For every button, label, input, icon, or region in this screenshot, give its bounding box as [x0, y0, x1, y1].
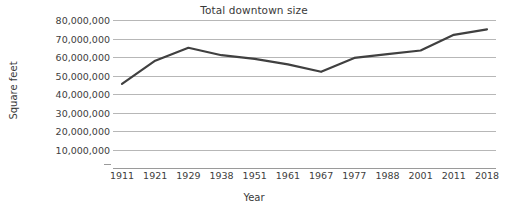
x-axis-tick-label: 1961 — [276, 170, 300, 181]
x-axis-tick-label: 1938 — [209, 170, 233, 181]
series-polyline — [122, 29, 487, 84]
x-axis-tick-label: 1977 — [342, 170, 366, 181]
x-axis-tick-label: 1921 — [143, 170, 167, 181]
y-axis-tick-label: 60,000,000 — [24, 52, 110, 63]
x-axis-tick-label: 1967 — [309, 170, 333, 181]
line-series — [113, 20, 496, 168]
y-axis-title-text: Square feet — [8, 61, 19, 119]
x-axis-title: Year — [0, 192, 508, 203]
y-axis-tick-label: 20,000,000 — [24, 126, 110, 137]
x-axis-tick-label: 1929 — [176, 170, 200, 181]
x-axis-tick-label: 1951 — [243, 170, 267, 181]
y-axis-tick-label: 40,000,000 — [24, 89, 110, 100]
x-axis-tick-label: 2001 — [409, 170, 433, 181]
x-axis-tick-labels: 1911192119291938195119611967197719882001… — [113, 170, 496, 186]
y-axis-zero-tick — [104, 164, 111, 165]
x-axis-tick-label: 2011 — [442, 170, 466, 181]
y-axis-tick-label: 80,000,000 — [24, 15, 110, 26]
plot-area — [113, 20, 496, 168]
x-axis-tick-label: 1911 — [110, 170, 134, 181]
chart-container: Total downtown size Square feet 80,000,0… — [0, 0, 508, 215]
gridline — [113, 168, 496, 169]
y-axis-tick-label: 10,000,000 — [24, 144, 110, 155]
y-axis-tick-labels: 80,000,00070,000,00060,000,00050,000,000… — [20, 20, 110, 168]
y-axis-tick-label: 50,000,000 — [24, 70, 110, 81]
y-axis-tick-label: 30,000,000 — [24, 107, 110, 118]
x-axis-tick-label: 1988 — [375, 170, 399, 181]
y-axis-tick-label: 70,000,000 — [24, 33, 110, 44]
x-axis-tick-label: 2018 — [475, 170, 499, 181]
